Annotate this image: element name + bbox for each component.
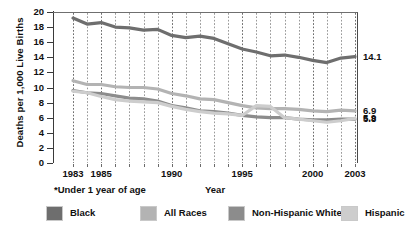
y-tick-label: 20 xyxy=(4,6,44,17)
y-tick-label: 8 xyxy=(4,97,44,108)
y-tick-label: 4 xyxy=(4,127,44,138)
y-tick-label: 14 xyxy=(4,51,44,62)
chart-legend: BlackAll RacesNon-Hispanic WhiteHispanic xyxy=(0,203,397,229)
footnote-under-one-year: *Under 1 year of age xyxy=(54,184,146,195)
plot-area xyxy=(53,12,358,163)
legend-swatch-icon xyxy=(46,206,63,221)
legend-label: Hispanic xyxy=(365,207,405,218)
legend-label: Non-Hispanic White xyxy=(252,207,342,218)
y-tick-label: 0 xyxy=(4,157,44,168)
x-tick-label: 1985 xyxy=(71,168,131,179)
y-tick-label: 2 xyxy=(4,142,44,153)
legend-swatch-icon xyxy=(140,206,157,221)
y-tick-label: 16 xyxy=(4,36,44,47)
end-value-14-1: 14.1 xyxy=(363,51,382,62)
x-axis-line xyxy=(53,163,359,164)
x-tick-label: 1990 xyxy=(142,168,202,179)
legend-swatch-icon xyxy=(341,206,358,221)
end-value-5-8: 5.8 xyxy=(363,113,376,124)
legend-label: Black xyxy=(70,207,95,218)
x-tick-label: 1995 xyxy=(212,168,272,179)
x-tick-label: 2003 xyxy=(325,168,385,179)
y-tick-label: 12 xyxy=(4,66,44,77)
y-tick-label: 10 xyxy=(4,82,44,93)
legend-divider xyxy=(0,198,397,199)
y-tick-label: 18 xyxy=(4,21,44,32)
legend-label: All Races xyxy=(164,207,207,218)
legend-swatch-icon xyxy=(228,206,245,221)
y-tick-label: 6 xyxy=(4,112,44,123)
x-axis-title: Year xyxy=(205,184,225,195)
